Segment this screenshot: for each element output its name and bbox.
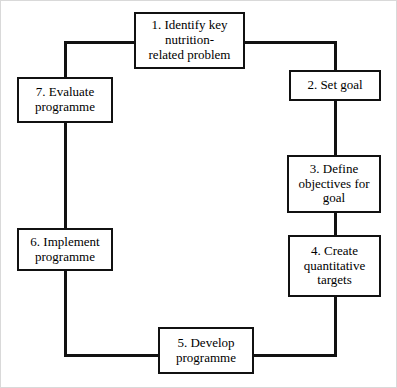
- connector-1-to-2-horizontal: [243, 41, 337, 44]
- flowchart-canvas: 1. Identify key nutrition- related probl…: [0, 0, 397, 388]
- connector-7-to-1-vertical: [64, 41, 67, 79]
- process-box-2-label: 2. Set goal: [307, 78, 362, 93]
- connector-2-to-3-vertical: [334, 99, 337, 157]
- process-box-4-label: 4. Create quantitative targets: [304, 244, 365, 288]
- process-box-7-evaluate-programme[interactable]: 7. Evaluate programme: [17, 77, 113, 123]
- process-box-6-label: 6. Implement programme: [30, 235, 99, 265]
- process-box-5-label: 5. Develop programme: [176, 336, 236, 366]
- connector-7-to-1-horizontal: [64, 41, 136, 44]
- connector-5-to-6-vertical: [64, 269, 67, 357]
- connector-1-to-2-vertical: [334, 41, 337, 72]
- connector-3-to-4-vertical: [334, 211, 337, 237]
- connector-4-to-5-horizontal: [252, 354, 337, 357]
- process-box-1-label: 1. Identify key nutrition- related probl…: [149, 18, 231, 62]
- process-box-3-label: 3. Define objectives for goal: [298, 162, 369, 206]
- process-box-3-define-objectives[interactable]: 3. Define objectives for goal: [287, 155, 381, 213]
- process-box-2-set-goal[interactable]: 2. Set goal: [289, 70, 381, 101]
- process-box-6-implement-programme[interactable]: 6. Implement programme: [17, 228, 113, 271]
- process-box-4-create-targets[interactable]: 4. Create quantitative targets: [288, 235, 381, 297]
- process-box-7-label: 7. Evaluate programme: [35, 85, 95, 115]
- connector-4-to-5-vertical: [334, 295, 337, 357]
- process-box-5-develop-programme[interactable]: 5. Develop programme: [158, 327, 254, 374]
- connector-5-to-6-horizontal: [64, 354, 160, 357]
- connector-6-to-7-vertical: [64, 121, 67, 230]
- process-box-1-identify-problem[interactable]: 1. Identify key nutrition- related probl…: [134, 12, 245, 69]
